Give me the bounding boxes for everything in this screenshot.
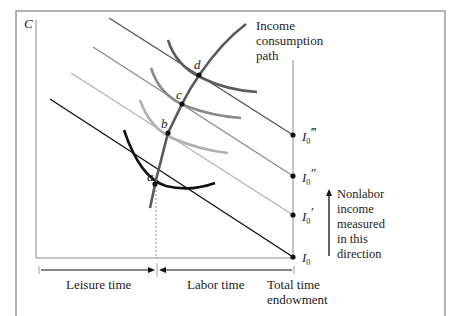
indifference-curve-a xyxy=(124,130,215,188)
icp-label-line3: path xyxy=(256,48,279,63)
icp-label-line1: Income xyxy=(256,18,295,33)
income-point-i0-prime xyxy=(290,212,295,217)
budget-line-i0-double-prime xyxy=(93,47,293,176)
leisure-arrow-head xyxy=(148,267,155,273)
income-label-i0-triple-prime: I0‴ xyxy=(301,124,317,146)
nonlabor-note-line5: direction xyxy=(337,247,382,261)
nonlabor-note-line3: measured xyxy=(337,217,386,231)
labor-label: Labor time xyxy=(187,277,245,292)
income-label-i0: I0 xyxy=(301,250,310,267)
leisure-label: Leisure time xyxy=(66,277,132,292)
nonlabor-arrow-head xyxy=(326,189,332,196)
budget-line-i0 xyxy=(50,99,293,257)
nonlabor-note-line2: income xyxy=(337,202,374,216)
nonlabor-note-line4: in this xyxy=(337,232,368,246)
point-c-dot xyxy=(179,101,184,106)
labor-arrow-head xyxy=(159,267,166,273)
point-d-dot xyxy=(196,72,201,77)
income-point-i0-triple-prime xyxy=(290,132,295,137)
point-b-dot xyxy=(165,130,170,135)
point-b-label: b xyxy=(161,116,168,131)
point-c-label: c xyxy=(176,87,182,102)
endowment-label-line1: Total time xyxy=(267,277,320,292)
point-d-label: d xyxy=(194,57,201,72)
y-axis-label: C xyxy=(24,16,33,31)
budget-line-i0-prime xyxy=(71,73,293,215)
income-consumption-diagram: C a b c d I0 I0′ I0″ I0‴ Income consumpt… xyxy=(0,0,451,316)
endowment-label-line2: endowment xyxy=(267,292,328,307)
point-a-label: a xyxy=(147,169,154,184)
icp-label-line2: consumption xyxy=(256,33,324,48)
nonlabor-note-line1: Nonlabor xyxy=(337,187,385,201)
income-label-i0-double-prime: I0″ xyxy=(301,165,316,187)
income-point-i0-double-prime xyxy=(290,173,295,178)
income-label-i0-prime: I0′ xyxy=(301,204,313,226)
income-point-i0 xyxy=(290,254,295,259)
